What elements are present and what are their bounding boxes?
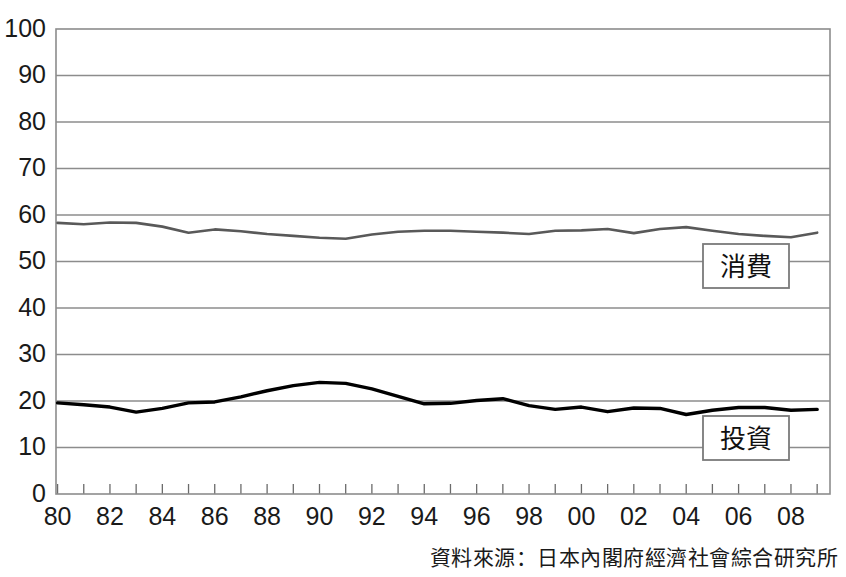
y-axis-tick-label: 10: [18, 432, 46, 460]
source-caption: 資料來源：日本內閣府經濟社會綜合研究所: [430, 541, 839, 571]
x-axis-tick-label: 08: [777, 502, 805, 530]
x-axis-tick-label: 98: [515, 502, 543, 530]
y-axis-tick-label: 60: [18, 200, 46, 228]
x-axis-tick-label: 04: [672, 502, 700, 530]
line-chart: 0102030405060708090100 80828486889092949…: [0, 0, 846, 577]
y-axis-tick-label: 70: [18, 153, 46, 181]
x-axis-tick-label: 90: [306, 502, 334, 530]
x-axis-tick-label: 84: [148, 502, 176, 530]
legend-label-investment: 投資: [720, 424, 772, 454]
y-axis-tick-label: 50: [18, 246, 46, 274]
y-axis-tick-label: 40: [18, 293, 46, 321]
legend-investment: 投資: [703, 416, 789, 460]
x-axis-tick-label: 94: [410, 502, 438, 530]
y-axis-tick-label: 90: [18, 60, 46, 88]
y-axis-tick-label: 100: [4, 14, 46, 42]
x-axis-tick-label: 06: [725, 502, 753, 530]
x-axis-tick-label: 86: [201, 502, 229, 530]
x-axis-tick-label: 00: [568, 502, 596, 530]
x-axis-tick-label: 02: [620, 502, 648, 530]
legend-label-consumption: 消費: [720, 252, 772, 282]
x-axis-tick-label: 92: [358, 502, 386, 530]
x-axis-tick-label: 88: [253, 502, 281, 530]
legend-consumption: 消費: [703, 244, 789, 288]
x-axis-tick-label: 96: [463, 502, 491, 530]
y-axis-tick-label: 80: [18, 107, 46, 135]
y-axis-tick-label: 30: [18, 339, 46, 367]
y-axis-labels: 0102030405060708090100: [4, 14, 46, 507]
x-axis-labels: 808284868890929496980002040608: [44, 502, 805, 530]
y-axis-tick-label: 20: [18, 386, 46, 414]
chart-container: 0102030405060708090100 80828486889092949…: [0, 0, 846, 577]
x-axis-tick-label: 82: [96, 502, 124, 530]
x-axis-tick-label: 80: [44, 502, 72, 530]
